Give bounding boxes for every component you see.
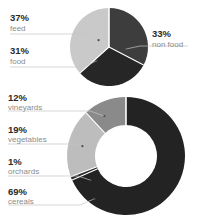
charts-svg: 37% feed 31% food 33% non food 12% viney… bbox=[0, 0, 198, 223]
leader-dot-non-food bbox=[125, 48, 127, 50]
charts-figure: 37% feed 31% food 33% non food 12% viney… bbox=[0, 0, 198, 223]
donut-chart bbox=[67, 97, 185, 215]
leader-dot-feed bbox=[98, 39, 100, 41]
leader-dot-cereals bbox=[93, 198, 95, 200]
leader-dot-vegetables bbox=[81, 145, 83, 147]
pie-label-food-name: food bbox=[10, 57, 26, 66]
donut-label-vineyards-pct: 12% bbox=[8, 92, 28, 103]
donut-label-vegetables-name: vegetables bbox=[8, 135, 47, 144]
pie-label-non-food-pct: 33% bbox=[152, 28, 172, 39]
donut-label-orchards-name: orchards bbox=[8, 167, 39, 176]
leader-dot-orchards bbox=[89, 179, 91, 181]
pie-label-food-pct: 31% bbox=[10, 45, 30, 56]
donut-label-orchards-pct: 1% bbox=[8, 156, 22, 167]
pie-label-feed-name: feed bbox=[10, 24, 26, 33]
pie-label-feed-pct: 37% bbox=[10, 12, 30, 23]
donut-label-vineyards-name: vineyards bbox=[8, 103, 42, 112]
donut-label-cereals-name: cereals bbox=[8, 197, 34, 206]
leader-dot-food bbox=[95, 60, 97, 62]
donut-label-vegetables-pct: 19% bbox=[8, 124, 28, 135]
leader-dot-vineyards bbox=[103, 115, 105, 117]
donut-label-cereals-pct: 69% bbox=[8, 186, 28, 197]
pie-label-non-food-name: non food bbox=[152, 40, 183, 49]
